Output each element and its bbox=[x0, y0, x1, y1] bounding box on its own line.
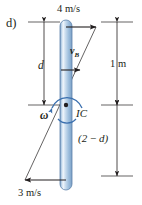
label-two-minus-d-operator: − bbox=[87, 132, 99, 144]
rod-kinematics-figure: d) 4 m/s 3 m/s d 1 m vB ω IC (2 − d) bbox=[0, 0, 142, 205]
label-velocity-b-subscript: B bbox=[74, 51, 79, 59]
figure-canvas bbox=[0, 0, 142, 205]
label-top-velocity: 4 m/s bbox=[57, 4, 80, 15]
instant-center-point bbox=[64, 103, 68, 107]
label-instant-center: IC bbox=[76, 108, 87, 119]
part-label: d) bbox=[6, 17, 16, 30]
label-velocity-b: vB bbox=[70, 46, 79, 59]
label-dimension-two-minus-d: (2 − d) bbox=[78, 133, 108, 144]
label-two-minus-d-open: (2 bbox=[78, 132, 87, 144]
label-dimension-one-meter: 1 m bbox=[110, 59, 126, 70]
label-bottom-velocity: 3 m/s bbox=[18, 188, 41, 199]
label-distance-d: d bbox=[38, 60, 44, 72]
label-angular-velocity: ω bbox=[40, 110, 48, 122]
label-two-minus-d-close: d) bbox=[99, 132, 108, 144]
